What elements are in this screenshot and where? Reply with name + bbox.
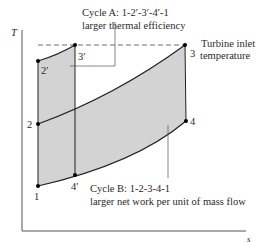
state-point-4 xyxy=(184,119,188,123)
label-2p: 2′ xyxy=(41,65,49,76)
cycle-a-desc: larger thermal efficiency xyxy=(82,20,186,31)
turbine-inlet-label-1: Turbine inlet xyxy=(201,38,255,49)
x-axis-label: s xyxy=(247,234,251,243)
label-2: 2 xyxy=(27,119,32,130)
cycle-a-title: Cycle A: 1-2′-3′-4′-1 xyxy=(82,7,169,18)
label-3: 3 xyxy=(190,48,195,59)
turbine-inlet-label-2: temperature xyxy=(200,50,250,61)
label-3p: 3′ xyxy=(78,51,86,62)
cycle-b-desc: larger net work per unit of mass flow xyxy=(90,196,246,207)
state-point-2p xyxy=(36,59,40,63)
label-4: 4 xyxy=(190,116,196,127)
label-1: 1 xyxy=(34,191,39,202)
label-4p: 4′ xyxy=(71,181,79,192)
state-point-3p xyxy=(73,43,77,47)
state-point-1 xyxy=(36,184,40,188)
state-point-2 xyxy=(36,122,40,126)
state-point-3 xyxy=(183,43,187,47)
cycle-b-title: Cycle B: 1-2-3-4-1 xyxy=(90,183,170,194)
y-axis-label: T xyxy=(11,27,18,38)
ts-diagram: T s 1 2 2′ 3′ 3 4 4′ Cycle A: 1-2′-3′-4′… xyxy=(0,0,267,243)
state-point-4p xyxy=(73,173,77,177)
